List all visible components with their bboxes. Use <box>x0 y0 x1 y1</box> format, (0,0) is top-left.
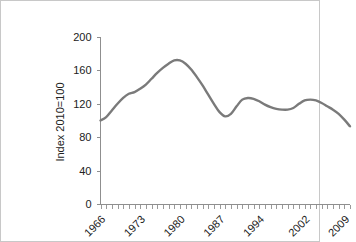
x-tick-labels: 1966197319801987199420022009 <box>82 213 352 239</box>
x-tick-label: 2009 <box>326 213 352 239</box>
y-axis-title-text: Index 2010=100 <box>54 82 66 161</box>
y-axis-title: Index 2010=100 <box>54 82 66 161</box>
x-tick-label: 1966 <box>82 213 108 239</box>
y-tick-label: 40 <box>79 165 91 177</box>
x-tick-label: 1994 <box>241 213 267 239</box>
data-series-line <box>101 60 351 126</box>
y-tick-label: 0 <box>85 198 91 210</box>
x-tick-label: 2002 <box>286 213 312 239</box>
y-tick-label: 160 <box>73 64 91 76</box>
y-tick-label: 120 <box>73 98 91 110</box>
line-chart-figure: Index 2010=100 04080120160200 1966197319… <box>41 17 356 242</box>
y-tick-labels: 04080120160200 <box>73 31 91 210</box>
y-tick-label: 200 <box>73 31 91 43</box>
y-tick-label: 80 <box>79 131 91 143</box>
x-tick-label: 1980 <box>161 213 187 239</box>
x-tick-label: 1987 <box>201 213 227 239</box>
x-tick-label: 1973 <box>121 213 147 239</box>
x-axis-minor-ticks <box>102 205 351 209</box>
chart-canvas: Index 2010=100 04080120160200 1966197319… <box>41 17 356 242</box>
